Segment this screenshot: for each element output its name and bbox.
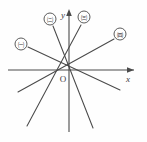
coordinate-diagram: ㈠ ㈡ ㈢ ㈣ y x O [0,0,147,142]
x-axis-label: x [125,74,130,84]
label-a-text: ㈠ [18,41,24,49]
line-d [18,39,114,92]
label-d-text: ㈣ [117,31,123,39]
y-axis-label: y [60,10,65,20]
figure-canvas: ㈠ ㈡ ㈢ ㈣ y x O [0,0,147,142]
x-axis-arrow-icon [127,67,134,73]
label-b-text: ㈡ [47,16,53,24]
line-a [28,47,120,90]
y-axis-arrow-icon [66,9,72,16]
label-c-text: ㈢ [81,14,87,22]
origin-label: O [60,74,67,84]
